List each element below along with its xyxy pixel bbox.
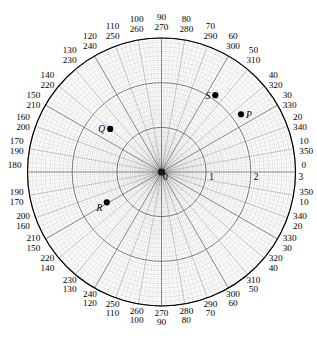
angular-label-outer: 90 <box>157 12 167 22</box>
angular-label-inner: 250 <box>106 31 120 41</box>
angular-label-inner: 260 <box>130 24 144 34</box>
angular-label-outer: 110 <box>106 21 120 31</box>
radial-tick-label: 3 <box>299 172 304 182</box>
angular-label-inner: 280 <box>179 24 193 34</box>
angular-label-inner: 340 <box>293 122 307 132</box>
angular-label-inner: 170 <box>10 197 24 207</box>
angular-label-inner: 60 <box>228 298 238 308</box>
angular-label-inner: 50 <box>249 284 259 294</box>
angular-label-inner: 30 <box>283 243 293 253</box>
angular-label-outer: 130 <box>63 45 77 55</box>
angular-label-inner: 150 <box>26 243 40 253</box>
angular-label-inner: 160 <box>16 221 30 231</box>
angular-label-outer: 200 <box>16 211 30 221</box>
angular-label-inner: 350 <box>299 146 313 156</box>
angular-label-inner: 70 <box>206 308 216 318</box>
angular-label-inner: 130 <box>63 284 77 294</box>
angular-label-outer: 190 <box>10 187 24 197</box>
angular-label-outer: 180 <box>8 160 22 170</box>
angular-label-inner: 140 <box>40 263 54 273</box>
angular-label-outer: 210 <box>26 233 40 243</box>
data-point-label-s: S <box>206 91 211 101</box>
angular-label-outer: 40 <box>269 70 279 80</box>
angular-label-inner: 240 <box>83 41 97 51</box>
angular-label-outer: 140 <box>40 70 54 80</box>
data-point-s <box>212 92 218 98</box>
angular-label-outer: 100 <box>130 14 144 24</box>
radial-tick-label: 1 <box>209 172 214 182</box>
angular-label-outer: 350 <box>299 187 313 197</box>
angular-label-inner: 300 <box>226 41 240 51</box>
angular-label-inner: 230 <box>63 55 77 65</box>
angular-label-inner: 220 <box>40 80 54 90</box>
angular-label-inner: 90 <box>157 317 167 327</box>
angular-label-inner: 110 <box>106 308 120 318</box>
polar-chart: PSQR 0123 010350203403033040320503106030… <box>0 0 317 342</box>
angular-label-inner: 100 <box>130 315 144 325</box>
angular-label-inner: 40 <box>269 263 279 273</box>
data-point-r <box>104 199 110 205</box>
angular-label-inner: 330 <box>283 100 297 110</box>
angular-label-outer: 220 <box>40 253 54 263</box>
angular-label-outer: 80 <box>182 14 192 24</box>
angular-label-inner: 190 <box>10 146 24 156</box>
angular-label-inner: 20 <box>293 221 303 231</box>
angular-label-inner: 270 <box>155 22 169 32</box>
angular-label-outer: 160 <box>16 112 30 122</box>
angular-label-outer: 170 <box>10 136 24 146</box>
angular-label-inner: 80 <box>182 315 192 325</box>
angular-label-outer: 70 <box>206 21 216 31</box>
angular-label-outer: 50 <box>249 45 259 55</box>
angular-label-inner: 200 <box>16 122 30 132</box>
angular-label-outer: 150 <box>26 90 40 100</box>
angular-label-outer: 30 <box>283 90 293 100</box>
angular-label-outer: 20 <box>293 112 303 122</box>
radial-tick-label: 2 <box>254 172 259 182</box>
angular-label-outer: 330 <box>283 233 297 243</box>
angular-label-outer: 10 <box>299 136 309 146</box>
polar-plot-canvas: PSQR 0123 010350203403033040320503106030… <box>0 0 317 342</box>
angular-label-inner: 320 <box>269 80 283 90</box>
angular-label-outer: 320 <box>269 253 283 263</box>
angular-label-inner: 290 <box>204 31 218 41</box>
data-point-label-r: R <box>95 203 102 213</box>
angular-label-outer: 60 <box>228 31 238 41</box>
angular-label-outer: 0 <box>302 160 307 170</box>
data-point-label-q: Q <box>98 124 105 134</box>
angular-label-inner: 310 <box>247 55 261 65</box>
angular-label-inner: 10 <box>299 197 309 207</box>
radial-tick-label: 0 <box>163 172 168 182</box>
data-point-label-p: P <box>245 110 252 120</box>
angular-label-inner: 210 <box>26 100 40 110</box>
angular-label-outer: 340 <box>293 211 307 221</box>
angular-label-outer: 120 <box>83 31 97 41</box>
data-point-q <box>107 126 113 132</box>
data-point-p <box>238 111 244 117</box>
angular-label-inner: 120 <box>83 298 97 308</box>
